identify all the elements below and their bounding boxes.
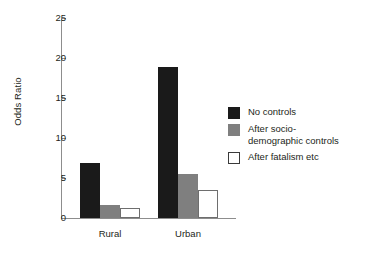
legend-item-no-controls[interactable]: No controls <box>228 106 366 119</box>
bar <box>100 205 120 218</box>
bar <box>120 208 140 218</box>
legend-item-socio-demographic-controls[interactable]: After socio-demographic controls <box>228 123 366 146</box>
x-axis-line <box>61 218 236 219</box>
legend-label-socio-demographic-controls: After socio-demographic controls <box>248 123 339 146</box>
legend-label-no-controls: No controls <box>248 106 296 118</box>
bar <box>80 163 100 218</box>
bar <box>198 190 218 218</box>
chart-legend: No controls After socio-demographic cont… <box>228 106 366 168</box>
legend-label-line-2: demographic controls <box>248 135 339 146</box>
legend-swatch-white-icon <box>228 152 240 164</box>
legend-item-fatalism[interactable]: After fatalism etc <box>228 151 366 164</box>
legend-swatch-gray-icon <box>228 124 240 136</box>
legend-label-line-1: After socio- <box>248 123 296 134</box>
bar <box>158 67 178 218</box>
legend-swatch-black-icon <box>228 107 240 119</box>
bar <box>178 174 198 218</box>
plot-area <box>62 18 236 218</box>
legend-label-fatalism: After fatalism etc <box>248 151 319 163</box>
y-axis-title: Odds Ratio <box>12 62 23 142</box>
bar-chart: Odds Ratio 0510152025 RuralUrban No cont… <box>0 0 367 253</box>
x-axis-group-label: Urban <box>142 228 234 239</box>
